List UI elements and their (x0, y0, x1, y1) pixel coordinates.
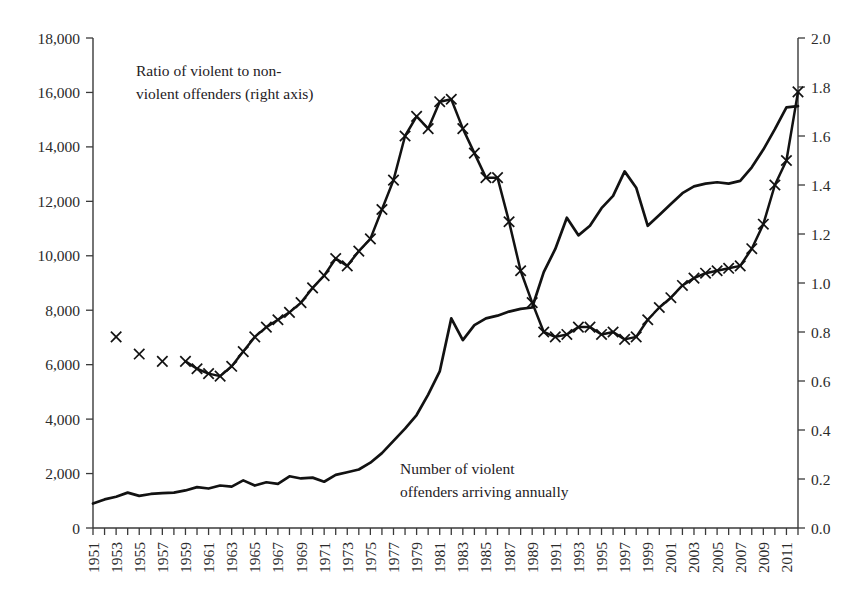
right-axis-tick-label: 0.8 (811, 324, 831, 341)
x-axis-tick-label: 1971 (316, 542, 333, 573)
x-axis-tick-label: 1959 (177, 542, 194, 573)
left-axis-tick-label: 18,000 (37, 30, 80, 47)
x-axis-tick-label: 1997 (616, 542, 633, 573)
ratio-annotation-line1: Ratio of violent to non- (136, 62, 282, 79)
x-axis-tick-label: 1993 (570, 542, 587, 573)
x-axis-tick-label: 1973 (339, 542, 356, 573)
right-axis-tick-label: 1.0 (811, 275, 831, 292)
right-axis-tick-label: 1.8 (811, 79, 831, 96)
x-axis-tick-label: 1969 (293, 542, 310, 573)
right-axis-tick-label: 0.4 (811, 422, 831, 439)
left-axis-tick-label: 6,000 (45, 356, 80, 373)
count-annotation-line2: offenders arriving annually (400, 483, 569, 500)
right-axis-tick-label: 1.2 (811, 226, 830, 243)
right-axis-tick-label: 0.6 (811, 373, 831, 390)
x-axis-tick-label: 1975 (362, 542, 379, 573)
x-axis-tick-label: 2011 (778, 542, 795, 572)
count-annotation-line1: Number of violent (400, 460, 515, 477)
x-axis-tick-label: 1979 (408, 542, 425, 573)
left-axis-tick-label: 2,000 (45, 465, 80, 482)
x-axis-tick-label: 1961 (200, 542, 217, 573)
x-axis-tick-label: 1951 (85, 542, 102, 573)
x-axis-tick-label: 2009 (755, 542, 772, 573)
x-axis-tick-label: 1977 (385, 542, 402, 573)
x-axis-tick-label: 1965 (246, 542, 263, 573)
left-axis-tick-label: 4,000 (45, 411, 80, 428)
right-axis-tick-label: 2.0 (811, 30, 831, 47)
x-axis-tick-label: 1953 (108, 542, 125, 573)
right-axis-tick-label: 1.6 (811, 128, 831, 145)
x-axis-tick-label: 1963 (223, 542, 240, 573)
left-axis-tick-label: 14,000 (37, 138, 80, 155)
x-axis-tick-label: 1967 (269, 542, 286, 573)
x-axis-tick-label: 1999 (639, 542, 656, 573)
left-axis-tick-label: 0 (72, 520, 80, 537)
x-axis-tick-label: 2007 (732, 542, 749, 573)
right-axis-tick-label: 1.4 (811, 177, 831, 194)
x-axis-tick-label: 2003 (685, 542, 702, 573)
right-axis-tick-label: 0.0 (811, 520, 831, 537)
left-axis-tick-label: 10,000 (37, 247, 80, 264)
dual-axis-line-chart: 02,0004,0006,0008,00010,00012,00014,0001… (0, 0, 863, 615)
x-axis-tick-label: 1955 (131, 542, 148, 573)
x-axis-tick-label: 1987 (501, 542, 518, 573)
x-axis-tick-label: 1981 (431, 542, 448, 573)
left-axis-tick-label: 8,000 (45, 302, 80, 319)
chart-background (0, 0, 863, 615)
right-axis-tick-label: 0.2 (811, 471, 830, 488)
x-axis-tick-label: 1983 (454, 542, 471, 573)
x-axis-tick-label: 1989 (524, 542, 541, 573)
left-axis-tick-label: 12,000 (37, 193, 80, 210)
x-axis-tick-label: 1991 (547, 542, 564, 573)
x-axis-tick-label: 2005 (709, 542, 726, 573)
x-axis-tick-label: 1957 (154, 542, 171, 573)
x-axis-tick-label: 1995 (593, 542, 610, 573)
x-axis-tick-label: 2001 (662, 542, 679, 573)
x-axis-tick-label: 1985 (477, 542, 494, 573)
left-axis-tick-label: 16,000 (37, 84, 80, 101)
ratio-annotation-line2: violent offenders (right axis) (136, 85, 314, 103)
